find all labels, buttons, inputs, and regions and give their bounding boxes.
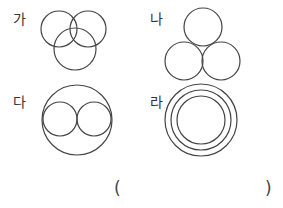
circle-shape xyxy=(165,42,203,80)
circle-shape xyxy=(171,90,231,150)
circle-shape xyxy=(70,11,106,47)
answer-open-paren: ( xyxy=(114,180,121,197)
circle-shape xyxy=(77,102,111,136)
answer-close-paren: ) xyxy=(265,180,272,197)
figure-da xyxy=(42,85,112,155)
figure-na xyxy=(165,8,240,80)
figure-ga xyxy=(41,11,106,70)
circle-shape xyxy=(202,42,240,80)
answer-blank[interactable] xyxy=(128,180,263,200)
circle-diagrams xyxy=(0,0,283,208)
circle-shape xyxy=(165,84,237,156)
circle-shape xyxy=(54,28,96,70)
figure-ra xyxy=(165,84,237,156)
circle-shape xyxy=(184,8,222,46)
circle-shape xyxy=(177,96,225,144)
circle-shape xyxy=(43,102,77,136)
circle-shape xyxy=(41,11,77,47)
